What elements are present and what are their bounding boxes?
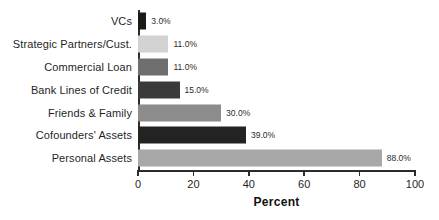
category-label: Strategic Partners/Cust. [13, 38, 132, 50]
bar-value-label: 11.0% [173, 39, 196, 49]
value-axis-line [138, 170, 415, 172]
axis-tick-label: 20 [187, 178, 199, 190]
category-label: Friends & Family [48, 107, 132, 119]
axis-tick-label: 100 [406, 178, 424, 190]
axis-tick [248, 170, 250, 176]
bar-row: Personal Assets 88.0% [138, 147, 415, 170]
axis-tick-label: 80 [353, 178, 365, 190]
axis-tick [414, 170, 416, 176]
bar-cofounders-assets [138, 127, 246, 144]
bar-value-label: 15.0% [185, 85, 209, 95]
bar-friends-family [138, 104, 221, 121]
bar-personal-assets [138, 150, 382, 167]
bar-value-label: 30.0% [226, 108, 250, 118]
bar-row: Strategic Partners/Cust. 11.0% [138, 33, 415, 56]
bar-value-label: 3.0% [151, 16, 170, 26]
axis-tick-label: 60 [298, 178, 310, 190]
category-label: Personal Assets [52, 152, 132, 164]
bar-row: Cofounders' Assets 39.0% [138, 124, 415, 147]
bar-strategic-partners [138, 36, 168, 53]
bar-row: VCs 3.0% [138, 10, 415, 33]
bar-row: Friends & Family 30.0% [138, 101, 415, 124]
category-label: VCs [111, 15, 132, 27]
bar-commercial-loan [138, 58, 168, 75]
bar-value-label: 11.0% [173, 62, 196, 72]
bar-vcs [138, 13, 146, 30]
bar-row: Commercial Loan 11.0% [138, 56, 415, 79]
category-label: Commercial Loan [44, 61, 132, 73]
axis-tick [303, 170, 305, 176]
bar-value-label: 88.0% [387, 153, 411, 163]
axis-tick [193, 170, 195, 176]
plot-area: VCs 3.0% Strategic Partners/Cust. 11.0% … [138, 10, 415, 170]
axis-tick [359, 170, 361, 176]
bar-row: Bank Lines of Credit 15.0% [138, 78, 415, 101]
bar-bank-lines-of-credit [138, 81, 180, 98]
bar-chart: VCs 3.0% Strategic Partners/Cust. 11.0% … [0, 0, 439, 220]
axis-tick-label: 0 [135, 178, 141, 190]
category-label: Bank Lines of Credit [31, 84, 132, 96]
category-label: Cofounders' Assets [36, 129, 132, 141]
axis-tick-label: 40 [243, 178, 255, 190]
axis-tick [137, 170, 139, 176]
axis-title-percent: Percent [138, 195, 415, 209]
bar-value-label: 39.0% [251, 130, 275, 140]
